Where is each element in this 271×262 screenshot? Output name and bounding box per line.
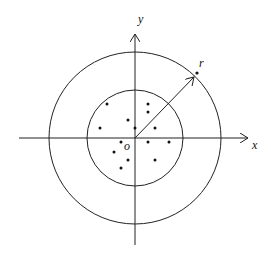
- diagram-canvas: y x o r: [0, 0, 271, 262]
- x-axis-label: x: [251, 138, 258, 152]
- data-point: [120, 167, 123, 170]
- data-point: [127, 119, 130, 122]
- radius-label: r: [199, 56, 204, 70]
- data-point: [99, 127, 102, 130]
- data-point: [147, 141, 150, 144]
- data-point: [106, 103, 109, 106]
- radius-point: [195, 71, 198, 74]
- data-point: [147, 111, 150, 114]
- data-point: [147, 103, 150, 106]
- data-point: [127, 159, 130, 162]
- data-point: [134, 127, 137, 130]
- y-axis-label: y: [137, 12, 144, 26]
- data-point: [120, 141, 123, 144]
- data-point: [113, 151, 116, 154]
- data-point: [168, 141, 171, 144]
- radius-arrow: [135, 77, 194, 138]
- data-point: [154, 159, 157, 162]
- data-point: [154, 127, 157, 130]
- origin-label: o: [124, 139, 130, 153]
